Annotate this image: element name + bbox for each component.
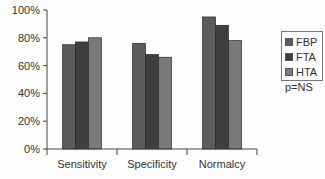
legend-label: HTA (296, 66, 317, 78)
bar-hta-specificity (159, 57, 172, 149)
y-tick-label: 20% (18, 115, 40, 127)
bar-fbp-normalcy (203, 17, 216, 149)
bar-fta-normalcy (216, 25, 229, 149)
legend-swatch (285, 68, 293, 76)
bar-hta-normalcy (229, 41, 242, 149)
legend-item-fta: FTA (285, 49, 322, 64)
bar-hta-sensitivity (89, 38, 102, 149)
legend-item-hta: HTA (285, 64, 322, 79)
bar-fta-sensitivity (76, 42, 89, 149)
significance-note: p=NS (285, 81, 313, 93)
legend: FBP FTA HTA (281, 31, 323, 81)
y-tick-label: 80% (18, 32, 40, 44)
legend-item-fbp: FBP (285, 34, 322, 49)
bar-fbp-specificity (133, 43, 146, 149)
bar-fta-specificity (146, 54, 159, 149)
y-tick-label: 100% (12, 4, 40, 16)
x-category-label: Normalcy (199, 158, 246, 170)
legend-swatch (285, 38, 293, 46)
bars (63, 17, 242, 149)
bar-fbp-sensitivity (63, 45, 76, 149)
bar-chart: 0%20%40%60%80%100% SensitivitySpecificit… (0, 0, 325, 179)
y-tick-label: 0% (24, 143, 40, 155)
legend-label: FBP (296, 36, 317, 48)
y-axis: 0%20%40%60%80%100% (12, 4, 47, 155)
y-tick-label: 60% (18, 60, 40, 72)
x-category-label: Specificity (127, 158, 177, 170)
legend-swatch (285, 53, 293, 61)
x-category-label: Sensitivity (57, 158, 107, 170)
x-axis: SensitivitySpecificityNormalcy (47, 149, 257, 170)
y-tick-label: 40% (18, 87, 40, 99)
legend-label: FTA (296, 51, 316, 63)
